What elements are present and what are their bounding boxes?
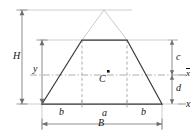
x-bar-overline [186, 68, 190, 69]
dashed-construction-lines [82, 40, 127, 104]
dimension-line-y [37, 40, 48, 104]
dimension-line-d [170, 75, 174, 104]
label-H: H [13, 51, 20, 61]
label-B: B [98, 118, 104, 128]
label-base-axis-x: x [186, 99, 190, 109]
label-base-left-b: b [59, 107, 64, 117]
x-bar-text: x [186, 68, 190, 78]
label-d: d [176, 83, 181, 93]
trapezoid-centroid-diagram [0, 0, 192, 135]
label-centroidal-axis-x-bar: x [186, 69, 190, 78]
dimension-line-c [170, 40, 174, 75]
construction-triangle [82, 10, 127, 40]
figure-container: H y c d x x C b a b B [0, 0, 192, 135]
extension-lines [20, 10, 178, 130]
label-centroid-C: C [99, 74, 106, 84]
label-base-right-b: b [141, 107, 146, 117]
label-y: y [33, 64, 37, 74]
centroid-point-marker [107, 70, 110, 73]
label-c: c [176, 52, 180, 62]
trapezoid-outline [42, 40, 162, 104]
